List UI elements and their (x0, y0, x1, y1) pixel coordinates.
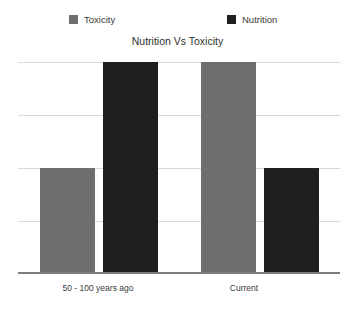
legend-swatch-nutrition-icon (227, 15, 236, 24)
bars-layer (18, 62, 340, 274)
legend-entry-nutrition: Nutrition (227, 11, 277, 27)
legend-swatch-toxicity-icon (69, 15, 78, 24)
plot-area (18, 62, 340, 274)
legend-label-toxicity: Toxicity (84, 14, 115, 25)
chart-title: Nutrition Vs Toxicity (0, 35, 355, 48)
x-axis-label-group-1: 50 - 100 years ago (42, 282, 154, 294)
legend-entry-toxicity: Toxicity (69, 11, 115, 27)
bar (264, 168, 319, 274)
legend-label-nutrition: Nutrition (242, 14, 277, 25)
bar (40, 168, 95, 274)
x-axis-label-group-2: Current (188, 282, 300, 294)
chart-legend: Toxicity Nutrition (0, 11, 355, 27)
x-axis-line (18, 272, 340, 274)
bar-chart: Toxicity Nutrition Nutrition Vs Toxicity… (0, 0, 355, 309)
bar (103, 62, 158, 273)
bar (201, 62, 256, 273)
x-axis-category-labels: 50 - 100 years ago Current (18, 282, 340, 296)
